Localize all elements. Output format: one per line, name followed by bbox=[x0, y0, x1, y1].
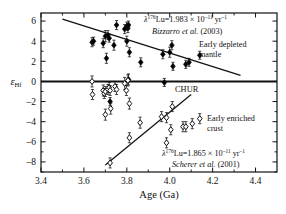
x-tick-label: 4.0 bbox=[164, 176, 176, 186]
data-point-open bbox=[108, 106, 113, 112]
bizzarro-citation-text: Bizzarro et al. (2003) bbox=[152, 27, 222, 36]
data-point-filled bbox=[108, 99, 113, 105]
x-tick-label: 3.6 bbox=[78, 176, 90, 186]
y-tick-label: 2 bbox=[31, 57, 36, 67]
data-point-open bbox=[108, 160, 113, 166]
chur-label: CHUR bbox=[175, 85, 199, 94]
data-point-open bbox=[103, 112, 108, 118]
data-point-filled bbox=[101, 40, 106, 46]
x-tick-label: 4.2 bbox=[207, 176, 219, 186]
y-tick-label: 6 bbox=[31, 16, 36, 26]
data-point-open bbox=[190, 121, 195, 127]
x-tick-label: 3.4 bbox=[35, 176, 47, 186]
y-tick-label: –6 bbox=[26, 137, 37, 147]
data-point-filled bbox=[114, 22, 119, 28]
y-axis-label: εHf bbox=[10, 76, 22, 89]
data-point-open bbox=[90, 92, 95, 98]
data-point-filled bbox=[104, 55, 109, 61]
data-point-filled bbox=[161, 51, 166, 57]
data-point-filled bbox=[171, 63, 176, 69]
hf-isotope-evolution-figure: 3.43.63.84.04.24.46420–2–4–6–8εHfAge (Ga… bbox=[0, 0, 286, 214]
data-point-open bbox=[127, 135, 132, 141]
scherer-lambda-text: λ176Lu=1.865 × 10–11 yr–1 bbox=[161, 148, 245, 158]
y-tick-label: –4 bbox=[26, 117, 37, 127]
x-axis-label: Age (Ga) bbox=[139, 189, 179, 201]
early-depleted-mantle-label: Early depletedmantle bbox=[199, 40, 247, 59]
y-axis-label-sub: Hf bbox=[15, 81, 23, 88]
bizzarro-lambda-text: λ176Lu=1.983 × 10–11 yr–1 bbox=[143, 14, 227, 24]
data-point-open bbox=[159, 114, 164, 120]
data-point-filled bbox=[167, 49, 172, 55]
data-point-open bbox=[127, 101, 132, 107]
data-point-filled bbox=[162, 79, 167, 85]
data-point-filled bbox=[138, 59, 143, 65]
y-tick-label: –2 bbox=[26, 97, 37, 107]
scherer-citation-text: Scherer et al. (2001) bbox=[172, 160, 240, 169]
early-enriched-crust-label: Early enrichedcrust bbox=[207, 114, 255, 133]
data-point-open bbox=[168, 127, 173, 133]
data-point-open bbox=[90, 78, 95, 84]
y-tick-label: –8 bbox=[26, 157, 37, 167]
y-tick-label: 0 bbox=[31, 77, 36, 87]
data-point-open bbox=[197, 116, 202, 122]
y-tick-label: 4 bbox=[31, 37, 36, 47]
x-tick-label: 3.8 bbox=[121, 176, 133, 186]
x-tick-label: 4.4 bbox=[250, 176, 262, 186]
data-point-filled bbox=[112, 42, 117, 48]
data-point-filled bbox=[127, 49, 132, 55]
data-point-open bbox=[138, 120, 143, 126]
scatter-plot-canvas: 3.43.63.84.04.24.46420–2–4–6–8εHfAge (Ga… bbox=[0, 0, 286, 214]
data-point-open bbox=[164, 140, 169, 146]
